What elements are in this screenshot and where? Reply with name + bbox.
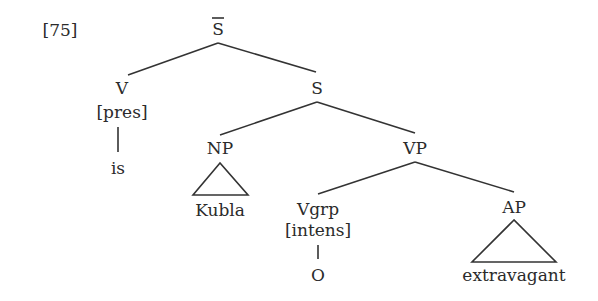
leaf-o: O	[311, 265, 325, 285]
edge-sbar-v	[128, 43, 218, 75]
edge-s-vp	[317, 102, 415, 133]
syntax-tree-diagram: [75] S V [pres] is S NP Kubla VP Vgrp [i…	[0, 0, 598, 301]
triangle-ap	[472, 220, 556, 262]
node-sbar: S	[212, 19, 224, 39]
leaf-kubla: Kubla	[195, 200, 245, 220]
node-np: NP	[207, 138, 233, 158]
node-ap: AP	[501, 197, 526, 217]
node-vgrp-feature: [intens]	[285, 220, 351, 240]
leaf-is: is	[111, 158, 125, 178]
node-v: V	[115, 78, 129, 98]
example-number: [75]	[43, 20, 78, 40]
triangle-np	[193, 163, 248, 195]
edge-sbar-s	[218, 43, 316, 72]
node-vp: VP	[402, 138, 427, 158]
edge-s-np	[220, 102, 317, 135]
node-v-feature: [pres]	[96, 102, 147, 122]
node-vgrp: Vgrp	[296, 199, 339, 219]
node-s: S	[311, 78, 323, 98]
leaf-extravagant: extravagant	[462, 265, 565, 285]
edge-vp-ap	[415, 162, 514, 192]
edge-vp-vgrp	[318, 162, 415, 194]
